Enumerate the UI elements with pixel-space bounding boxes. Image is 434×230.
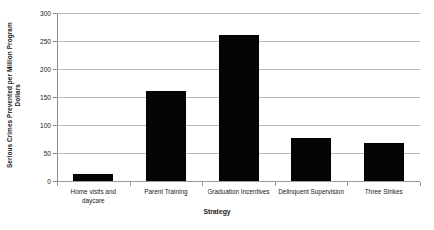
x-tick-mark <box>347 182 348 186</box>
bar <box>73 174 113 181</box>
x-tick-mark <box>420 182 421 186</box>
bar <box>219 35 259 181</box>
x-category-label-line: Parent Training <box>144 188 187 195</box>
x-tick-mark <box>57 182 58 186</box>
x-tick-mark <box>275 182 276 186</box>
x-category-label: Three Strikes <box>341 188 426 197</box>
bar <box>291 138 331 181</box>
x-category-label-line: daycare <box>82 197 105 204</box>
y-tick-label: 100 <box>3 122 51 129</box>
bar-chart: Serious Crimes Prevented per Million Pro… <box>0 0 434 230</box>
x-tick-mark <box>202 182 203 186</box>
y-tick-label: 300 <box>3 10 51 17</box>
x-axis-title: Strategy <box>0 208 434 215</box>
y-tick-label: 200 <box>3 66 51 73</box>
bar <box>146 91 186 181</box>
y-tick-label: 250 <box>3 38 51 45</box>
x-category-label-line: Delinquent Supervision <box>278 188 344 195</box>
x-axis-line <box>57 181 420 182</box>
gridline <box>57 13 420 14</box>
x-category-label-line: Graduation Incentives <box>207 188 269 195</box>
x-category-label-line: Three Strikes <box>365 188 403 195</box>
x-category-label-line: Home visits and <box>71 188 116 195</box>
y-tick-label: 150 <box>3 94 51 101</box>
x-tick-mark <box>130 182 131 186</box>
plot-area <box>57 13 420 181</box>
y-tick-label: 0 <box>3 178 51 185</box>
y-tick-label: 50 <box>3 150 51 157</box>
bar <box>364 143 404 181</box>
